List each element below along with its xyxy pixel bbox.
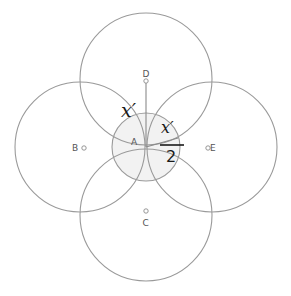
- label-b: B: [72, 143, 78, 153]
- label-a: A: [131, 137, 138, 147]
- radius-label-x-prime: x′: [121, 99, 137, 121]
- label-c: C: [143, 218, 149, 228]
- point-b: [82, 146, 86, 150]
- point-c: [144, 209, 148, 213]
- half-radius-denominator: 2: [166, 147, 176, 166]
- label-d: D: [143, 69, 150, 79]
- half-radius-numerator: x′: [161, 118, 174, 137]
- point-d: [144, 79, 148, 83]
- label-e: E: [210, 143, 216, 153]
- circles-diagram: D A B E C x′ x′ 2: [0, 0, 291, 296]
